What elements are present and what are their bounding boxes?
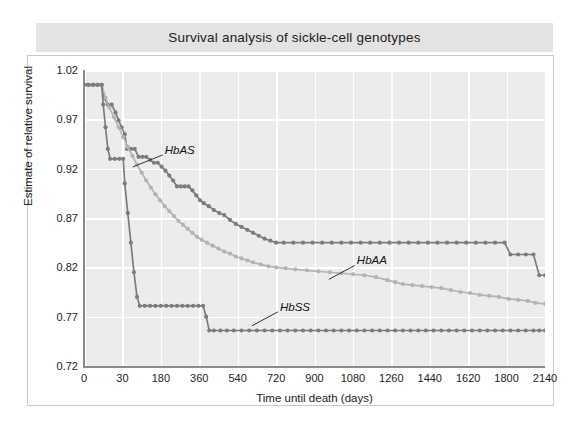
annotation-label-HbAS: HbAS [165,144,195,156]
annotation-leader-line [252,312,278,326]
page-title: Survival analysis of sickle-cell genotyp… [168,30,420,45]
series-HbSS [84,83,545,333]
series-HbAA [84,83,545,306]
x-axis-tick-label: 1260 [379,372,403,384]
y-axis-tick-label: 0.87 [57,212,78,224]
x-axis-tick-label: 1800 [494,372,518,384]
y-axis-tick-label: 0.77 [57,311,78,323]
x-axis-tick-label: 2140 [533,372,557,384]
x-axis-tick-label: 1440 [418,372,442,384]
chart-title-band: Survival analysis of sickle-cell genotyp… [36,23,553,52]
x-axis-tick-label: 30 [116,372,128,384]
x-axis-title: Time until death (days) [84,392,545,404]
y-axis-tick-label: 0.72 [57,360,78,372]
y-axis-tick-label: 1.02 [57,64,78,76]
y-axis-tick-label: 0.82 [57,261,78,273]
x-axis-tick-label: 1080 [341,372,365,384]
y-axis-tick-labels: 1.020.970.920.870.820.770.72 [0,0,78,434]
x-axis-tick-label: 720 [267,372,285,384]
y-axis-tick-label: 0.92 [57,163,78,175]
survival-curves [84,70,545,366]
gridline-vertical [545,70,547,366]
y-axis-title: Estimate of relative survival [22,46,34,226]
x-axis-tick-label: 540 [228,372,246,384]
x-axis-tick-label: 360 [190,372,208,384]
x-axis-tick-label: 0 [81,372,87,384]
x-axis-tick-label: 1620 [456,372,480,384]
x-axis-tick-label: 180 [152,372,170,384]
y-axis-tick-label: 0.97 [57,113,78,125]
x-axis-tick-label: 900 [305,372,323,384]
series-HbAS [84,83,545,278]
annotation-label-HbAA: HbAA [357,254,387,266]
annotation-label-HbSS: HbSS [280,301,310,313]
x-axis-line [83,366,545,368]
